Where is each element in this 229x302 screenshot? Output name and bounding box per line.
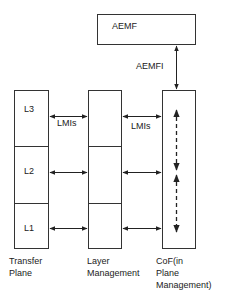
cof-column [163,91,196,249]
caption-transfer-plane-2: Plane [9,268,32,279]
caption-transfer-plane-1: Transfer [9,256,42,267]
aemfi-label: AEMFI [136,61,164,72]
caption-cof-3: Management) [156,280,212,291]
caption-cof-1: CoF(in [156,256,183,267]
caption-cof-2: Plane [156,268,179,279]
caption-layer-management-2: Management [87,268,140,279]
cell-l3-label: L3 [24,104,34,115]
aemf-label: AEMF [112,21,137,32]
lmis-label-right: LMIs [131,121,151,132]
cell-l1-label: L1 [24,223,34,234]
caption-layer-management-1: Layer [87,256,110,267]
cell-l2-label: L2 [24,166,34,177]
layer-management-column [89,91,122,249]
lmis-label-left: LMIs [57,118,77,129]
